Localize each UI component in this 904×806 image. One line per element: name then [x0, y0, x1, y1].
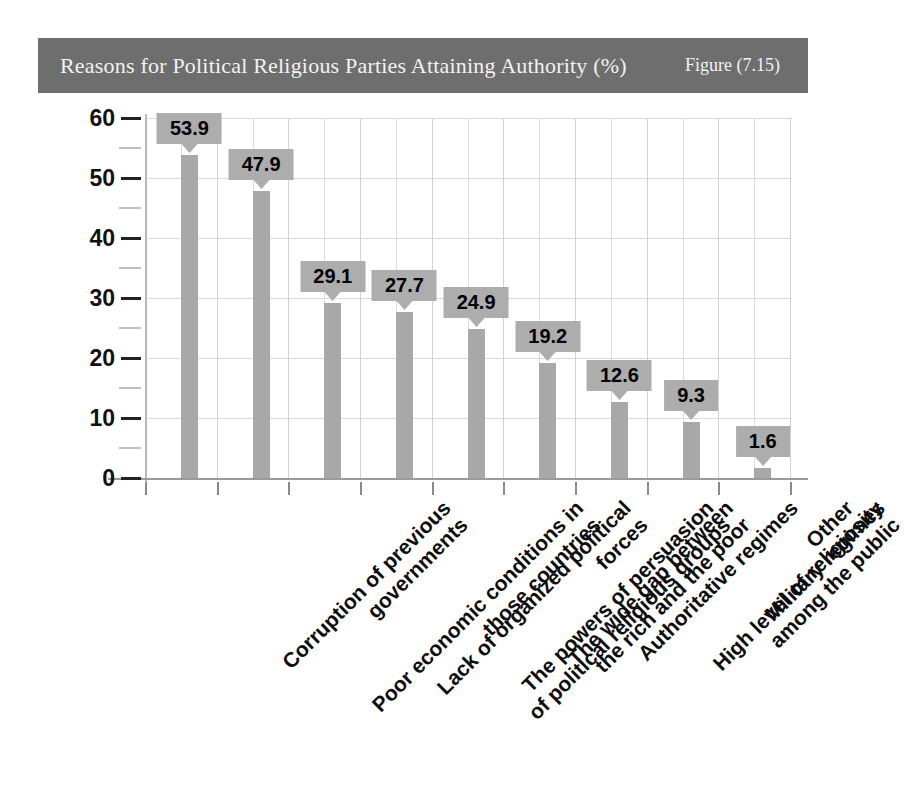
y-axis-tick: [121, 297, 141, 300]
callout-tail-icon: [396, 301, 412, 310]
bar[interactable]: [181, 155, 198, 478]
bar[interactable]: [324, 303, 341, 478]
callout-tail-icon: [683, 411, 699, 420]
y-axis-tick: [121, 477, 141, 480]
gridline-vertical: [790, 118, 791, 478]
bar[interactable]: [683, 422, 700, 478]
gridline-vertical: [718, 118, 719, 478]
y-axis-minor-tick: [119, 147, 141, 149]
y-axis-label: 50: [69, 165, 115, 192]
y-axis-tick: [121, 177, 141, 180]
x-axis-tick: [575, 482, 577, 495]
y-axis-label: 40: [69, 225, 115, 252]
bar[interactable]: [396, 312, 413, 478]
y-axis-minor-tick: [119, 267, 141, 269]
y-axis-minor-tick: [119, 447, 141, 449]
callout-tail-icon: [253, 180, 269, 189]
x-axis-tick: [647, 482, 649, 495]
bar-value-label: 9.3: [664, 380, 718, 411]
bar-value-label: 19.2: [515, 321, 580, 352]
bar-chart: 0102030405060 53.947.929.127.724.919.212…: [0, 100, 838, 806]
bar[interactable]: [468, 329, 485, 478]
bar-value-label: 47.9: [229, 149, 294, 180]
y-axis-label: 30: [69, 285, 115, 312]
y-axis-label: 0: [69, 465, 115, 492]
y-axis-tick: [121, 237, 141, 240]
bar-value-label: 29.1: [300, 261, 365, 292]
x-axis-tick: [217, 482, 219, 495]
callout-tail-icon: [540, 352, 556, 361]
bar[interactable]: [253, 191, 270, 478]
y-axis-label: 20: [69, 345, 115, 372]
callout-tail-icon: [181, 144, 197, 153]
gridline-vertical-minor: [754, 118, 755, 478]
bar[interactable]: [611, 402, 628, 478]
y-axis-minor-tick: [119, 387, 141, 389]
gridline-vertical: [217, 118, 218, 478]
y-axis-tick: [121, 417, 141, 420]
x-axis-tick: [288, 482, 290, 495]
callout-tail-icon: [325, 292, 341, 301]
bar-value-label: 24.9: [444, 287, 509, 318]
chart-title-bar: Reasons for Political Religious Parties …: [38, 38, 808, 93]
callout-tail-icon: [468, 318, 484, 327]
x-axis-tick: [145, 482, 147, 495]
y-axis-label: 10: [69, 405, 115, 432]
gridline-vertical: [575, 118, 576, 478]
page-title: Reasons for Political Religious Parties …: [60, 53, 627, 79]
x-axis-tick: [503, 482, 505, 495]
bar-value-label: 53.9: [157, 113, 222, 144]
bar[interactable]: [539, 363, 556, 478]
bar-value-label: 12.6: [587, 360, 652, 391]
x-axis-line: [108, 478, 808, 480]
y-axis-tick: [121, 117, 141, 120]
bar-value-label: 1.6: [736, 426, 790, 457]
x-axis-tick: [790, 482, 792, 495]
figure-number-label: Figure (7.15): [685, 55, 786, 76]
callout-tail-icon: [755, 457, 771, 466]
x-axis-tick: [718, 482, 720, 495]
y-axis-minor-tick: [119, 327, 141, 329]
callout-tail-icon: [611, 391, 627, 400]
x-axis-tick: [432, 482, 434, 495]
bar-value-label: 27.7: [372, 270, 437, 301]
y-axis-label: 60: [69, 105, 115, 132]
gridline-vertical: [360, 118, 361, 478]
gridline-vertical: [647, 118, 648, 478]
bar[interactable]: [754, 468, 771, 478]
y-axis-minor-tick: [119, 207, 141, 209]
y-axis-line: [145, 114, 147, 482]
x-axis-tick: [360, 482, 362, 495]
y-axis-tick: [121, 357, 141, 360]
